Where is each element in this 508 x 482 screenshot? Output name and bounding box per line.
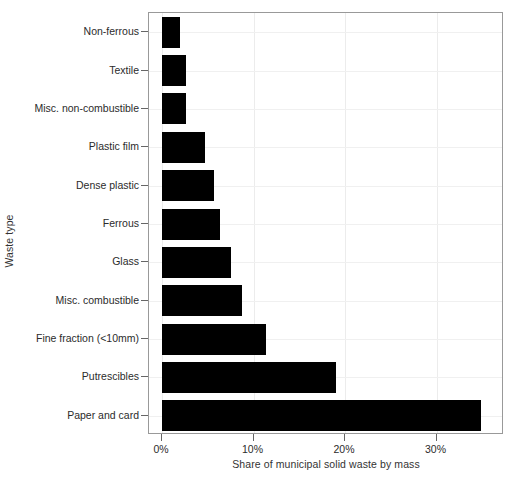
- y-axis-tick-mark: [141, 108, 148, 109]
- bar: [162, 285, 242, 316]
- y-axis-tick-label: Misc. non-combustible: [7, 102, 139, 114]
- y-axis-tick-mark: [141, 376, 148, 377]
- x-axis-tick-mark: [161, 434, 162, 441]
- bar: [162, 400, 481, 431]
- y-axis-tick-mark: [141, 31, 148, 32]
- x-axis-tick-mark: [436, 434, 437, 441]
- y-axis-tick-mark: [141, 185, 148, 186]
- bar: [162, 209, 220, 240]
- x-axis-tick-label: 20%: [314, 443, 374, 455]
- y-axis-tick-mark: [141, 415, 148, 416]
- x-axis-title: Share of municipal solid waste by mass: [148, 458, 504, 470]
- y-axis-tick-label: Paper and card: [7, 409, 139, 421]
- x-axis-tick-label: 0%: [131, 443, 191, 455]
- x-gridline: [345, 13, 346, 433]
- x-axis-tick-mark: [344, 434, 345, 441]
- bar: [162, 55, 186, 86]
- y-axis-tick-label: Fine fraction (<10mm): [7, 332, 139, 344]
- bar: [162, 132, 205, 163]
- x-gridline: [437, 13, 438, 433]
- x-axis-tick-label: 10%: [223, 443, 283, 455]
- y-gridline: [149, 109, 502, 110]
- bar: [162, 324, 266, 355]
- y-axis-tick-label: Putrescibles: [7, 370, 139, 382]
- bar: [162, 93, 186, 124]
- y-axis-tick-label: Plastic film: [7, 140, 139, 152]
- y-axis-tick-mark: [141, 300, 148, 301]
- bar: [162, 17, 180, 48]
- y-axis-tick-label: Textile: [7, 64, 139, 76]
- y-axis-tick-label: Non-ferrous: [7, 25, 139, 37]
- bar: [162, 170, 214, 201]
- y-axis-tick-label: Glass: [7, 255, 139, 267]
- y-axis-tick-mark: [141, 338, 148, 339]
- plot-panel: [148, 12, 503, 434]
- bar: [162, 362, 336, 393]
- y-axis-tick-mark: [141, 70, 148, 71]
- y-gridline: [149, 71, 502, 72]
- bar-chart: Waste type Share of municipal solid wast…: [0, 0, 508, 482]
- y-axis-tick-label: Misc. combustible: [7, 294, 139, 306]
- y-axis-tick-label: Ferrous: [7, 217, 139, 229]
- x-axis-tick-label: 30%: [406, 443, 466, 455]
- x-axis-tick-mark: [253, 434, 254, 441]
- y-axis-tick-mark: [141, 146, 148, 147]
- y-gridline: [149, 32, 502, 33]
- y-axis-tick-label: Dense plastic: [7, 179, 139, 191]
- bar: [162, 247, 231, 278]
- y-axis-tick-mark: [141, 261, 148, 262]
- y-axis-tick-mark: [141, 223, 148, 224]
